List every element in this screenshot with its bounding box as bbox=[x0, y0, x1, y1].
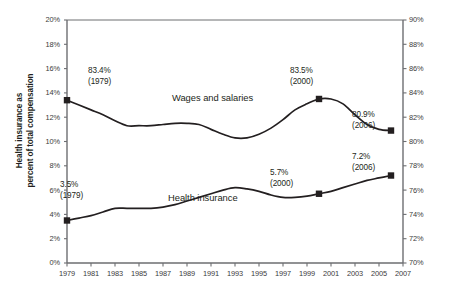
y-tick-left: 14% bbox=[34, 88, 60, 97]
annotation-year: (2000) bbox=[290, 77, 313, 88]
data-point-marker bbox=[388, 127, 394, 133]
y-tick-left: 20% bbox=[34, 15, 60, 24]
annotation-year: (2006) bbox=[352, 163, 375, 174]
annotation-health-2006: 7.2%(2006) bbox=[352, 152, 375, 173]
y-tick-right: 90% bbox=[409, 15, 435, 24]
annotation-health-1979: 3.5%(1979) bbox=[60, 180, 83, 201]
series-label-health: Health insurance bbox=[168, 192, 238, 203]
annotation-value: 83.4% bbox=[88, 66, 111, 77]
y-tick-right: 74% bbox=[409, 210, 435, 219]
chart-figure: Health insurance as percent of total com… bbox=[0, 0, 472, 296]
y-tick-right: 78% bbox=[409, 161, 435, 170]
annotation-value: 80.9% bbox=[352, 110, 375, 121]
y-tick-left: 16% bbox=[34, 64, 60, 73]
y-tick-right: 84% bbox=[409, 88, 435, 97]
annotation-value: 5.7% bbox=[270, 168, 293, 179]
y-tick-left: 18% bbox=[34, 40, 60, 49]
y-tick-right: 72% bbox=[409, 234, 435, 243]
annotation-value: 7.2% bbox=[352, 152, 375, 163]
annotation-wages-1979: 83.4%(1979) bbox=[88, 66, 111, 87]
y-tick-right: 70% bbox=[409, 258, 435, 267]
y-tick-left: 0% bbox=[34, 258, 60, 267]
annotation-value: 83.5% bbox=[290, 66, 313, 77]
y-tick-left: 10% bbox=[34, 137, 60, 146]
y-tick-right: 76% bbox=[409, 186, 435, 195]
y-tick-left: 12% bbox=[34, 113, 60, 122]
chart-plot-area bbox=[0, 0, 472, 296]
data-point-marker bbox=[316, 96, 322, 102]
annotation-year: (2000) bbox=[270, 179, 293, 190]
y-tick-left: 2% bbox=[34, 234, 60, 243]
annotation-year: (1979) bbox=[60, 191, 83, 202]
y-tick-left: 4% bbox=[34, 210, 60, 219]
y-tick-right: 82% bbox=[409, 113, 435, 122]
annotation-health-2000: 5.7%(2000) bbox=[270, 168, 293, 189]
y-tick-left: 8% bbox=[34, 161, 60, 170]
annotation-wages-2000: 83.5%(2000) bbox=[290, 66, 313, 87]
y-tick-right: 88% bbox=[409, 40, 435, 49]
y-tick-right: 86% bbox=[409, 64, 435, 73]
x-tick: 2007 bbox=[388, 269, 418, 278]
annotation-year: (2006) bbox=[352, 121, 375, 132]
annotation-wages-2006: 80.9%(2006) bbox=[352, 110, 375, 131]
data-point-marker bbox=[64, 217, 70, 223]
data-point-marker bbox=[64, 97, 70, 103]
data-point-marker bbox=[316, 191, 322, 197]
data-point-marker bbox=[388, 172, 394, 178]
y-tick-left: 6% bbox=[34, 186, 60, 195]
annotation-value: 3.5% bbox=[60, 180, 83, 191]
annotation-year: (1979) bbox=[88, 77, 111, 88]
y-tick-right: 80% bbox=[409, 137, 435, 146]
series-label-wages: Wages and salaries bbox=[172, 92, 253, 103]
